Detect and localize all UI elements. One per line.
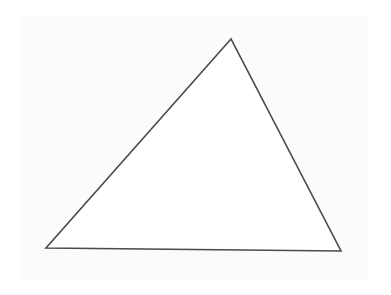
triangle-figure bbox=[0, 0, 391, 295]
triangle bbox=[46, 39, 341, 251]
